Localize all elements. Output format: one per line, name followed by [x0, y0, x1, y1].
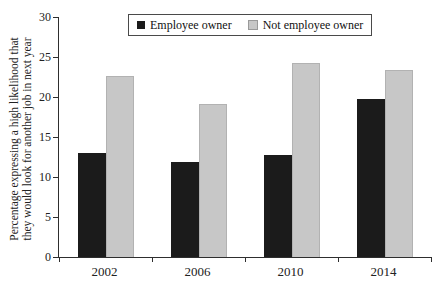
x-tick-label-2010: 2010	[244, 264, 337, 280]
bar-group-2002	[59, 17, 152, 257]
plot-area: 051015202530	[58, 17, 431, 258]
y-tick-label-0: 0	[45, 251, 51, 263]
y-tick-mark-20	[53, 97, 59, 98]
x-tick-mark-3	[338, 257, 339, 262]
y-axis-label-line2: they would look for another job in next …	[21, 37, 34, 240]
x-axis-labels: 2002200620102014	[58, 264, 430, 280]
y-tick-mark-30	[53, 17, 59, 18]
x-tick-label-2002: 2002	[58, 264, 151, 280]
y-tick-label-10: 10	[39, 171, 51, 183]
y-tick-label-30: 30	[39, 11, 51, 23]
x-tick-label-2014: 2014	[337, 264, 430, 280]
bar-2002-not-employee-owner	[106, 76, 134, 257]
bar-group-2010	[245, 17, 338, 257]
y-tick-mark-5	[53, 217, 59, 218]
bar-group-2014	[338, 17, 431, 257]
legend-item-not-employee-owner: Not employee owner	[248, 18, 364, 33]
bar-2014-not-employee-owner	[385, 70, 413, 257]
y-tick-mark-10	[53, 177, 59, 178]
y-tick-label-5: 5	[45, 211, 51, 223]
bar-2010-not-employee-owner	[292, 63, 320, 257]
legend-item-employee-owner: Employee owner	[137, 18, 232, 33]
y-tick-label-20: 20	[39, 91, 51, 103]
x-tick-mark-4	[431, 257, 432, 262]
legend-label-employee-owner: Employee owner	[150, 18, 232, 33]
y-tick-mark-25	[53, 57, 59, 58]
bar-2002-employee-owner	[78, 153, 106, 257]
legend-label-not-employee-owner: Not employee owner	[263, 18, 364, 33]
legend: Employee owner Not employee owner	[128, 14, 372, 36]
bar-2010-employee-owner	[264, 155, 292, 257]
x-tick-label-2006: 2006	[151, 264, 244, 280]
not-employee-owner-swatch-icon	[248, 20, 258, 30]
x-tick-mark-0	[59, 257, 60, 262]
x-tick-mark-1	[152, 257, 153, 262]
y-axis-label-line1: Percentage expressing a high likelihood …	[8, 37, 21, 240]
x-tick-mark-2	[245, 257, 246, 262]
figure: Percentage expressing a high likelihood …	[0, 0, 435, 293]
bar-group-2006	[152, 17, 245, 257]
y-tick-label-15: 15	[39, 131, 51, 143]
y-tick-mark-15	[53, 137, 59, 138]
employee-owner-swatch-icon	[137, 21, 145, 29]
bar-2014-employee-owner	[357, 99, 385, 257]
y-tick-label-25: 25	[39, 51, 51, 63]
y-axis-label: Percentage expressing a high likelihood …	[8, 37, 34, 240]
bar-2006-employee-owner	[171, 162, 199, 257]
bar-2006-not-employee-owner	[199, 104, 227, 257]
